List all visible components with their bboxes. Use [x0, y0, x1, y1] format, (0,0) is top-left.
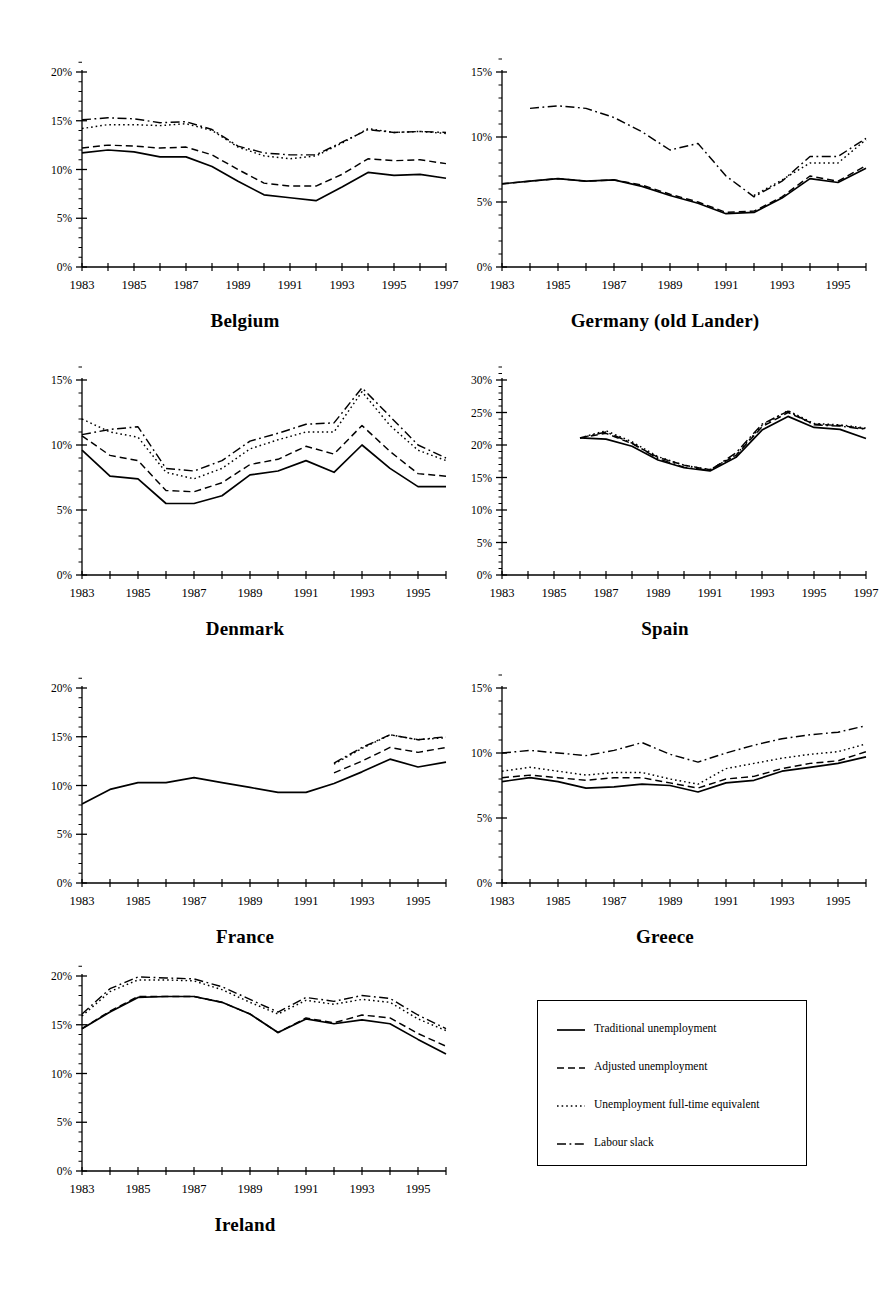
- line-chart-ireland: 0%5%10%15%20%198319851987198919911993199…: [30, 962, 460, 1217]
- series-line-solid: [502, 757, 866, 792]
- legend-item-adjusted: Adjusted unemployment: [538, 1047, 806, 1085]
- legend-label-traditional: Traditional unemployment: [594, 1022, 717, 1034]
- line-chart-spain: 0%5%10%15%20%25%30%198319851987198919911…: [450, 366, 880, 621]
- panel-title-spain: Spain: [450, 618, 880, 640]
- y-tick-label: 10%: [51, 439, 73, 451]
- x-tick-label: 1991: [294, 1182, 319, 1196]
- x-tick-label: 1991: [294, 586, 319, 600]
- x-tick-label: 1995: [406, 894, 431, 908]
- legend-item-fulltime: Unemployment full-time equivalent: [538, 1085, 806, 1123]
- series-line-dashed: [334, 747, 446, 772]
- y-tick-label: 0%: [57, 1165, 73, 1177]
- plot-area-belgium: 0%5%10%15%20%198319851987198919911993199…: [30, 58, 460, 313]
- series-line-dash-dot: [82, 118, 446, 155]
- series-line-dashed: [580, 413, 866, 470]
- panel-title-belgium: Belgium: [30, 310, 460, 332]
- plot-area-greece: 0%5%10%15%1983198519871989199119931995: [450, 674, 880, 929]
- x-tick-label: 1983: [490, 586, 515, 600]
- y-tick-label: 0%: [477, 261, 493, 273]
- x-tick-label: 1995: [382, 278, 407, 292]
- chart-panel-france: 0%5%10%15%20%198319851987198919911993199…: [30, 674, 460, 984]
- x-tick-label: 1983: [70, 894, 95, 908]
- y-tick-label: 5%: [477, 196, 493, 208]
- series-line-dotted: [82, 124, 446, 159]
- chart-panel-belgium: 0%5%10%15%20%198319851987198919911993199…: [30, 58, 460, 368]
- x-tick-label: 1983: [490, 894, 515, 908]
- y-tick-label: 10%: [471, 504, 493, 516]
- x-tick-label: 1983: [490, 278, 515, 292]
- y-tick-label: 5%: [57, 1116, 73, 1128]
- y-tick-label: 10%: [51, 164, 73, 176]
- x-tick-label: 1993: [770, 278, 795, 292]
- y-tick-label: 5%: [57, 504, 73, 516]
- x-tick-label: 1989: [226, 278, 251, 292]
- x-tick-label: 1993: [750, 586, 775, 600]
- series-line-dashed: [82, 426, 446, 492]
- x-tick-label: 1983: [70, 586, 95, 600]
- legend-label-slack: Labour slack: [594, 1136, 654, 1148]
- x-tick-label: 1987: [182, 894, 207, 908]
- y-tick-label: 15%: [51, 115, 73, 127]
- x-tick-label: 1989: [238, 1182, 263, 1196]
- y-tick-label: 10%: [471, 131, 493, 143]
- legend-item-slack: Labour slack: [538, 1123, 806, 1161]
- panel-title-germany: Germany (old Lander): [450, 310, 880, 332]
- y-tick-label: 20%: [51, 682, 73, 694]
- legend-label-fulltime: Unemployment full-time equivalent: [594, 1098, 759, 1110]
- series-line-dotted: [754, 140, 866, 196]
- y-tick-label: 10%: [51, 1068, 73, 1080]
- x-tick-label: 1989: [658, 278, 683, 292]
- line-chart-germany: 0%5%10%15%1983198519871989199119931995: [450, 58, 880, 313]
- line-chart-denmark: 0%5%10%15%1983198519871989199119931995: [30, 366, 460, 621]
- x-tick-label: 1987: [602, 894, 627, 908]
- legend-line-sample-dash-dot: [556, 1136, 586, 1148]
- series-line-dashed: [502, 752, 866, 788]
- figure-page: 0%5%10%15%20%198319851987198919911993199…: [0, 0, 880, 1309]
- x-tick-label: 1993: [770, 894, 795, 908]
- y-tick-label: 15%: [51, 731, 73, 743]
- x-tick-label: 1989: [646, 586, 671, 600]
- y-tick-label: 0%: [57, 569, 73, 581]
- legend-line-sample-solid: [556, 1022, 586, 1034]
- x-tick-label: 1993: [330, 278, 355, 292]
- y-tick-label: 15%: [471, 66, 493, 78]
- series-line-dotted: [82, 392, 446, 479]
- x-tick-label: 1983: [70, 1182, 95, 1196]
- x-tick-label: 1993: [350, 894, 375, 908]
- y-tick-label: 15%: [471, 682, 493, 694]
- y-tick-label: 10%: [471, 747, 493, 759]
- y-tick-label: 10%: [51, 780, 73, 792]
- series-line-solid: [82, 150, 446, 201]
- x-tick-label: 1989: [238, 894, 263, 908]
- y-tick-label: 0%: [477, 877, 493, 889]
- x-tick-label: 1985: [546, 894, 571, 908]
- y-tick-label: 15%: [51, 1019, 73, 1031]
- series-line-dashed: [82, 145, 446, 186]
- series-line-solid: [82, 445, 446, 504]
- line-chart-belgium: 0%5%10%15%20%198319851987198919911993199…: [30, 58, 460, 313]
- y-tick-label: 5%: [477, 812, 493, 824]
- chart-panel-greece: 0%5%10%15%1983198519871989199119931995Gr…: [450, 674, 880, 984]
- plot-area-ireland: 0%5%10%15%20%198319851987198919911993199…: [30, 962, 460, 1217]
- plot-area-spain: 0%5%10%15%20%25%30%198319851987198919911…: [450, 366, 880, 621]
- y-tick-label: 5%: [477, 537, 493, 549]
- line-chart-france: 0%5%10%15%20%198319851987198919911993199…: [30, 674, 460, 929]
- x-tick-label: 1991: [698, 586, 723, 600]
- plot-area-germany: 0%5%10%15%1983198519871989199119931995: [450, 58, 880, 313]
- plot-area-denmark: 0%5%10%15%1983198519871989199119931995: [30, 366, 460, 621]
- x-tick-label: 1987: [602, 278, 627, 292]
- x-tick-label: 1991: [278, 278, 303, 292]
- x-tick-label: 1989: [238, 586, 263, 600]
- x-tick-label: 1985: [542, 586, 567, 600]
- x-tick-label: 1995: [406, 586, 431, 600]
- series-line-dash-dot: [502, 726, 866, 762]
- plot-area-france: 0%5%10%15%20%198319851987198919911993199…: [30, 674, 460, 929]
- x-tick-label: 1985: [126, 894, 151, 908]
- x-tick-label: 1991: [294, 894, 319, 908]
- panel-title-greece: Greece: [450, 926, 880, 948]
- x-tick-label: 1995: [406, 1182, 431, 1196]
- line-chart-greece: 0%5%10%15%1983198519871989199119931995: [450, 674, 880, 929]
- x-tick-label: 1995: [826, 278, 851, 292]
- x-tick-label: 1985: [126, 1182, 151, 1196]
- x-tick-label: 1993: [350, 1182, 375, 1196]
